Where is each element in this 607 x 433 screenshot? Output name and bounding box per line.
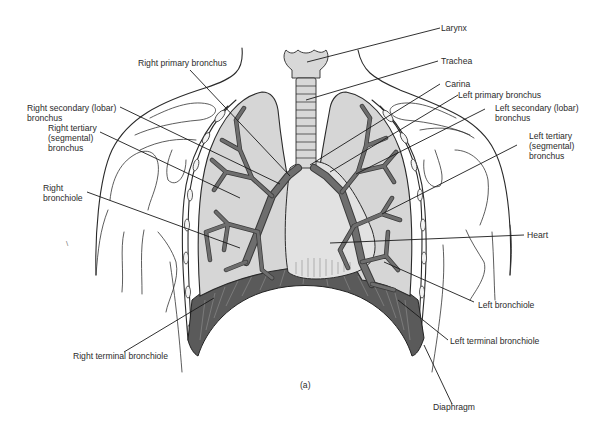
svg-text:\: \ [66,239,69,248]
label-right-tertiary-bronchus: Right tertiary (segmental) bronchus [48,123,97,153]
label-right-terminal-bronchiole: Right terminal bronchiole [73,351,168,361]
label-left-bronchiole: Left bronchiole [478,300,534,310]
label-carina: Carina [445,79,470,89]
trachea-organ [296,78,316,168]
lung-anatomy-illustration: \ [0,0,607,433]
label-heart: Heart [527,230,548,240]
label-left-primary-bronchus: Left primary bronchus [458,90,541,100]
label-left-terminal-bronchiole: Left terminal bronchiole [450,336,539,346]
label-right-bronchiole: Right bronchiole [43,183,83,203]
label-right-secondary-bronchus: Right secondary (lobar) bronchus [27,103,116,123]
label-trachea: Trachea [441,56,472,66]
label-right-primary-bronchus: Right primary bronchus [138,58,227,68]
label-left-tertiary-bronchus: Left tertiary (segmental) bronchus [529,131,574,161]
label-diaphragm: Diaphragm [433,402,475,412]
label-larynx: Larynx [441,23,467,33]
larynx-organ [284,50,328,78]
figure-caption: (a) [300,380,311,390]
label-left-secondary-bronchus: Left secondary (lobar) bronchus [495,103,579,123]
